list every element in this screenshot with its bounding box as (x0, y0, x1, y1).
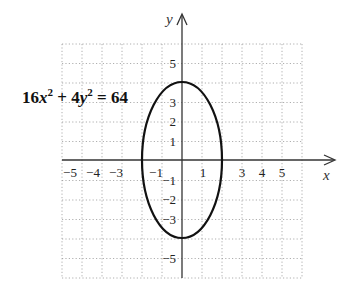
equation-label: 16x2 + 4y2 = 64 (22, 86, 128, 107)
y-tick: 5 (170, 56, 177, 71)
x-tick: 5 (279, 165, 286, 180)
x-tick: 1 (200, 165, 207, 180)
chart: y x −5 −4 −3 −1 1 3 4 5 5 3 2 1 −1 −2 −3… (0, 0, 349, 294)
x-axis-label: x (322, 167, 330, 183)
y-tick: −2 (162, 192, 176, 207)
y-axis-label: y (164, 11, 173, 27)
ellipse-plot: y x −5 −4 −3 −1 1 3 4 5 5 3 2 1 −1 −2 −3… (0, 0, 349, 294)
y-tick: −5 (162, 251, 176, 266)
x-tick: 4 (259, 165, 266, 180)
x-tick: 3 (239, 165, 246, 180)
y-tick: 3 (170, 95, 177, 110)
x-tick: −5 (63, 165, 77, 180)
y-tick: 1 (170, 134, 177, 149)
x-tick: −1 (149, 165, 163, 180)
x-axis (62, 155, 335, 165)
x-tick: −3 (109, 165, 123, 180)
y-tick: −3 (162, 212, 176, 227)
y-tick: 2 (170, 114, 177, 129)
y-tick: −1 (162, 173, 176, 188)
x-tick: −4 (86, 165, 100, 180)
